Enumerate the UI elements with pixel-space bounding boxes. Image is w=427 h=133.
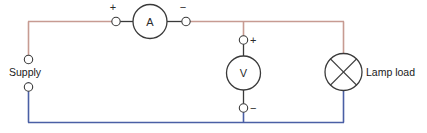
circuit-diagram-canvas: Supply + A − + V bbox=[0, 0, 427, 133]
voltmeter-minus-sign: − bbox=[250, 102, 256, 114]
lamp-load-label: Lamp load bbox=[366, 66, 415, 78]
ammeter-group: + A − bbox=[110, 1, 190, 39]
voltmeter-negative-terminal[interactable] bbox=[239, 104, 247, 112]
supply-positive-terminal[interactable] bbox=[24, 55, 32, 63]
positive-wire-group bbox=[28, 22, 344, 56]
circuit-diagram: Supply + A − + V bbox=[0, 0, 427, 133]
supply-negative-terminal[interactable] bbox=[24, 83, 32, 91]
ammeter-minus-sign: − bbox=[180, 1, 186, 13]
voltmeter-group: + V − bbox=[227, 34, 261, 114]
negative-wire-group bbox=[28, 82, 344, 123]
supply-label: Supply bbox=[9, 66, 42, 78]
voltmeter-positive-terminal[interactable] bbox=[239, 36, 247, 44]
ammeter-plus-sign: + bbox=[110, 1, 116, 13]
ammeter-positive-terminal[interactable] bbox=[112, 17, 120, 25]
voltmeter-plus-sign: + bbox=[250, 34, 256, 46]
lamp-load-group bbox=[325, 54, 362, 91]
ammeter-symbol-letter: A bbox=[146, 16, 154, 28]
voltmeter-symbol-letter: V bbox=[240, 67, 248, 79]
ammeter-negative-terminal[interactable] bbox=[182, 17, 190, 25]
